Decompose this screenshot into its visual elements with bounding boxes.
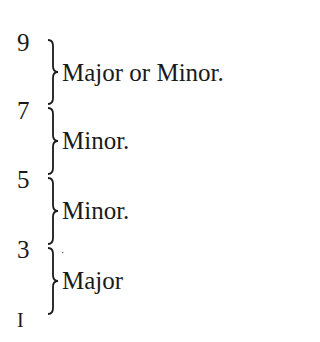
brace-icon (46, 106, 60, 176)
number-5: 5 (17, 167, 30, 192)
number-3: 3 (17, 237, 30, 262)
stray-dot: · (61, 248, 64, 258)
number-1: I (17, 310, 24, 330)
brace-icon (46, 176, 60, 246)
interval-label-5-3: Minor. (62, 198, 129, 223)
brace-icon (46, 38, 60, 106)
interval-label-3-1: Major (62, 268, 123, 293)
interval-label-7-5: Minor. (62, 128, 129, 153)
brace-icon (46, 246, 60, 316)
number-9: 9 (17, 30, 30, 55)
number-7: 7 (17, 98, 30, 123)
interval-label-9-7: Major or Minor. (62, 60, 224, 85)
